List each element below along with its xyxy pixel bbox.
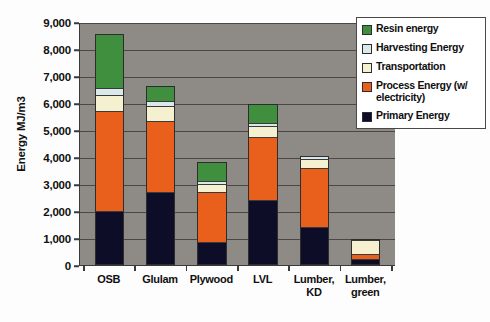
y-tick-label: 4,000 (43, 152, 71, 164)
bar-segment (301, 160, 328, 169)
x-tick-mark (288, 266, 290, 271)
legend-swatch-icon (362, 63, 372, 73)
x-tick-mark (134, 266, 136, 271)
y-tick-label: 6,000 (43, 98, 71, 110)
x-tick-label-line: Lumber, (292, 273, 336, 286)
bar-slot (139, 23, 183, 265)
bar-segment (147, 122, 174, 193)
x-tick-label-line: LVL (240, 273, 284, 286)
stacked-bar[interactable] (197, 162, 226, 265)
y-tick-label: 0 (65, 260, 71, 272)
y-axis-title: Energy MJ/m3 (15, 59, 27, 209)
stacked-bar[interactable] (351, 239, 380, 265)
bar-segment (352, 241, 379, 255)
bar-segment (249, 138, 276, 201)
y-tick-label: 9,000 (43, 17, 71, 29)
stacked-bar[interactable] (300, 156, 329, 265)
y-tick-label: 8,000 (43, 44, 71, 56)
bar-segment (198, 185, 225, 193)
x-tick-label: Lumber,KD (292, 273, 336, 298)
bar-slot (190, 23, 234, 265)
x-tick-label-line: Lumber, (343, 273, 387, 286)
bar-segment (147, 193, 174, 264)
bar-segment (249, 201, 276, 264)
legend-item-label: Resin energy (376, 23, 438, 35)
legend-item[interactable]: Resin energy (362, 23, 481, 35)
bar-segment (352, 260, 379, 264)
bar-segment (301, 169, 328, 227)
x-tick-label-line: OSB (86, 273, 130, 286)
bar-slot (87, 23, 131, 265)
y-tick-label: 7,000 (43, 71, 71, 83)
x-tick-mark (83, 266, 85, 271)
x-tick-label-line: green (343, 286, 387, 299)
bar-segment (96, 212, 123, 264)
bar-slot (241, 23, 285, 265)
legend-item[interactable]: Process Energy (w/ electricity) (362, 80, 481, 103)
x-tick-label: Lumber,green (343, 273, 387, 298)
bar-segment (96, 89, 123, 96)
legend-item[interactable]: Transportation (362, 61, 481, 73)
bar-segment (198, 243, 225, 264)
x-tick-label-group: OSBGlulamPlywoodLVLLumber,KDLumber,green (79, 273, 395, 298)
bar-segment (301, 228, 328, 264)
x-tick-label: Glulam (138, 273, 182, 298)
x-tick-label: OSB (86, 273, 130, 298)
bar-segment (198, 193, 225, 243)
x-tick-label: Plywood (189, 273, 233, 298)
bar-segment (96, 112, 123, 212)
y-tick-label: 1,000 (43, 233, 71, 245)
chart-root: Energy MJ/m3 9,0008,0007,0006,0005,0004,… (0, 0, 490, 322)
bar-segment (198, 163, 225, 182)
x-tick-label-line: KD (292, 286, 336, 299)
bar-segment (147, 107, 174, 122)
x-axis: OSBGlulamPlywoodLVLLumber,KDLumber,green (79, 266, 395, 314)
x-tick-label: LVL (240, 273, 284, 298)
bar-segment (249, 127, 276, 138)
bar-slot (292, 23, 336, 265)
y-axis: Energy MJ/m3 9,0008,0007,0006,0005,0004,… (0, 0, 79, 289)
legend-item-label: Primary Energy (376, 110, 449, 122)
x-tick-label-line: Plywood (189, 273, 233, 286)
bar-group (80, 23, 395, 265)
legend-item-label: Harvesting Energy (376, 42, 464, 54)
y-tick-label: 3,000 (43, 179, 71, 191)
legend: Resin energyHarvesting EnergyTransportat… (356, 17, 486, 129)
x-tick-mark (340, 266, 342, 271)
legend-swatch-icon (362, 44, 372, 54)
stacked-bar[interactable] (146, 86, 175, 265)
stacked-bar[interactable] (248, 104, 277, 265)
y-tick-label: 5,000 (43, 125, 71, 137)
x-tick-mark (186, 266, 188, 271)
bar-segment (147, 87, 174, 102)
legend-swatch-icon (362, 82, 372, 92)
legend-item-group: Resin energyHarvesting EnergyTransportat… (362, 23, 481, 122)
legend-item-label: Process Energy (w/ electricity) (376, 80, 481, 103)
bar-segment (96, 35, 123, 89)
y-tick-label: 2,000 (43, 206, 71, 218)
x-tick-mark (237, 266, 239, 271)
legend-swatch-icon (362, 112, 372, 122)
stacked-bar[interactable] (95, 34, 124, 265)
x-tick-mark (391, 266, 393, 271)
x-tick-label-line: Glulam (138, 273, 182, 286)
legend-swatch-icon (362, 25, 372, 35)
plot-area (79, 23, 395, 266)
bar-segment (249, 105, 276, 123)
legend-item[interactable]: Primary Energy (362, 110, 481, 122)
legend-item[interactable]: Harvesting Energy (362, 42, 481, 54)
bar-segment (96, 96, 123, 112)
legend-item-label: Transportation (376, 61, 445, 73)
